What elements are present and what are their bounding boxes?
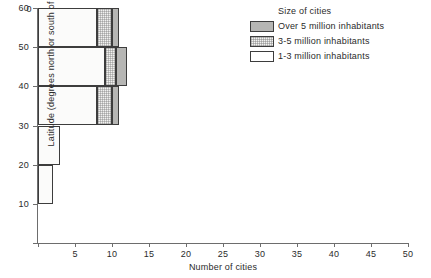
y-tick-mark bbox=[33, 204, 38, 205]
x-tick-label: 45 bbox=[366, 249, 376, 259]
x-tick-mark bbox=[334, 243, 335, 247]
legend-swatch-size-over-5 bbox=[250, 21, 274, 32]
bar-segment-size-3-5 bbox=[105, 47, 116, 86]
legend-items: Over 5 million inhabitants3-5 million in… bbox=[250, 19, 428, 63]
legend-item: 3-5 million inhabitants bbox=[250, 34, 428, 48]
x-tick-label: 50 bbox=[403, 249, 413, 259]
legend-item: 1-3 million inhabitants bbox=[250, 49, 428, 63]
legend-item-label: 1-3 million inhabitants bbox=[278, 51, 370, 61]
bar-band bbox=[38, 86, 408, 125]
x-tick-mark bbox=[297, 243, 298, 247]
bar-segment-size-over-5 bbox=[116, 47, 127, 86]
legend-item: Over 5 million inhabitants bbox=[250, 19, 428, 33]
x-tick-mark bbox=[260, 243, 261, 247]
x-tick-mark bbox=[149, 243, 150, 247]
bar-segment-size-3-5 bbox=[97, 8, 112, 47]
legend-swatch-size-1-3 bbox=[250, 51, 274, 62]
y-tick-label: 20 bbox=[19, 160, 29, 170]
x-tick-label: 25 bbox=[218, 249, 228, 259]
bar-segment-size-1-3 bbox=[38, 165, 53, 204]
y-tick-label: 50 bbox=[19, 42, 29, 52]
x-axis-title: Number of cities bbox=[38, 262, 408, 272]
x-tick-mark bbox=[186, 243, 187, 247]
legend-swatch-size-3-5 bbox=[250, 36, 274, 47]
bar-segment-size-over-5 bbox=[112, 8, 119, 47]
y-tick-label: 40 bbox=[19, 81, 29, 91]
x-tick-mark bbox=[371, 243, 372, 247]
x-tick-mark bbox=[223, 243, 224, 247]
x-tick-mark bbox=[112, 243, 113, 247]
x-tick-label: 10 bbox=[107, 249, 117, 259]
y-tick-label: 60 bbox=[19, 3, 29, 13]
x-tick-label: 5 bbox=[72, 249, 77, 259]
bar-segment-size-3-5 bbox=[97, 86, 112, 125]
x-tick-label: 35 bbox=[292, 249, 302, 259]
x-tick-label: 20 bbox=[181, 249, 191, 259]
x-tick-mark bbox=[38, 243, 39, 247]
legend-title: Size of cities bbox=[278, 6, 428, 16]
x-tick-mark bbox=[408, 243, 409, 247]
x-tick-label: 15 bbox=[144, 249, 154, 259]
x-tick-label: 30 bbox=[255, 249, 265, 259]
y-tick-label: 10 bbox=[19, 199, 29, 209]
y-axis-title: Latitude (degrees north or south of equa… bbox=[46, 0, 56, 150]
bar-band bbox=[38, 126, 408, 165]
y-tick-mark bbox=[33, 243, 38, 244]
legend-item-label: 3-5 million inhabitants bbox=[278, 36, 370, 46]
bar-segment-size-over-5 bbox=[112, 86, 119, 125]
legend-item-label: Over 5 million inhabitants bbox=[278, 21, 384, 31]
bar-band bbox=[38, 165, 408, 204]
legend: Size of cities Over 5 million inhabitant… bbox=[250, 6, 428, 64]
x-tick-label: 40 bbox=[329, 249, 339, 259]
x-tick-mark bbox=[75, 243, 76, 247]
chart-figure: 05101520253035404550 102030405060 Number… bbox=[0, 0, 431, 278]
y-tick-label: 30 bbox=[19, 121, 29, 131]
